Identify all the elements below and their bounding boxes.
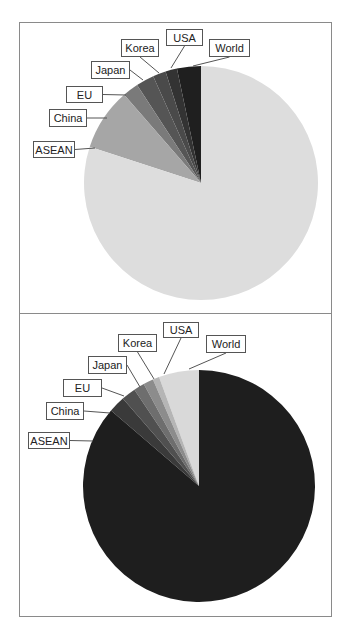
leader-line: [193, 57, 230, 66]
leader-line: [130, 70, 143, 80]
slice-label-japan: Japan: [91, 61, 130, 79]
slice-label-korea: Korea: [121, 39, 159, 57]
leader-line: [70, 441, 93, 442]
slice-label-asean: ASEAN: [28, 432, 70, 449]
leader-line: [102, 388, 124, 396]
slice-label-asean: ASEAN: [33, 141, 75, 158]
slice-label-usa: USA: [166, 29, 203, 46]
slice-label-china: China: [49, 109, 87, 127]
slice-label-japan: Japan: [88, 356, 127, 374]
pie-charts: [0, 0, 352, 630]
leader-line: [127, 365, 140, 387]
leader-line: [138, 352, 155, 379]
slice-label-usa: USA: [163, 322, 199, 338]
leader-line: [164, 338, 181, 374]
slice-label-china: China: [46, 402, 84, 420]
slice-label-world: World: [209, 39, 250, 57]
leader-line: [171, 46, 185, 68]
slice-label-korea: Korea: [118, 334, 157, 352]
slice-label-eu: EU: [63, 379, 102, 397]
leader-line: [189, 353, 226, 369]
leader-line: [140, 57, 159, 73]
slice-label-eu: EU: [66, 86, 103, 103]
leader-line: [103, 95, 126, 96]
leader-line: [84, 411, 110, 413]
slice-label-world: World: [206, 335, 246, 353]
